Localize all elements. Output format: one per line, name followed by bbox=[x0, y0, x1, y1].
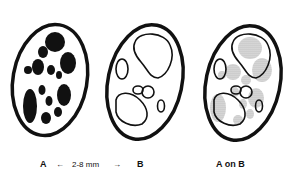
scale-label: 2-8 mm bbox=[72, 160, 99, 169]
label-a: A bbox=[40, 159, 47, 169]
panel-aonb-ellipse bbox=[195, 19, 291, 148]
diagram-svg bbox=[0, 0, 291, 177]
panel-b-ellipse bbox=[97, 18, 194, 147]
figure-canvas: A ← 2-8 mm → B A on B bbox=[0, 0, 291, 177]
right-arrow-icon: → bbox=[113, 160, 121, 169]
panel-a-ellipse bbox=[4, 18, 96, 141]
label-b: B bbox=[137, 159, 144, 169]
label-a-on-b: A on B bbox=[216, 159, 245, 169]
left-arrow-icon: ← bbox=[56, 160, 64, 169]
